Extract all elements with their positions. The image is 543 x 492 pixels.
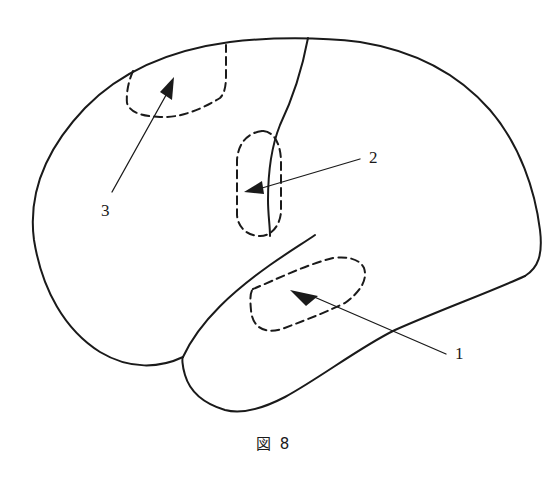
leader-line-3: [112, 88, 170, 192]
label-3: 3: [101, 201, 110, 221]
figure-caption: 図 8: [256, 432, 291, 453]
arrowhead-2-icon: [244, 181, 264, 194]
lateral-fissure: [183, 235, 315, 357]
leader-line-2: [262, 159, 360, 188]
leader-line-1: [312, 296, 446, 354]
arrowhead-3-icon: [160, 77, 174, 100]
label-2: 2: [369, 148, 378, 168]
label-1: 1: [455, 344, 464, 364]
arrowhead-1-icon: [290, 290, 318, 306]
brain-lateral-view-diagram: [0, 0, 543, 492]
region-3-dashed: [127, 45, 226, 117]
temporal-lobe-outline: [182, 276, 525, 411]
